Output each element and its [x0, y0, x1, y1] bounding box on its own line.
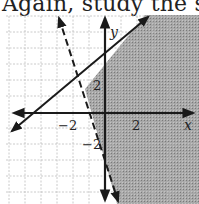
tick-label-x-2: 2	[132, 118, 140, 133]
tick-label-x-neg2: −2	[58, 118, 77, 133]
inequality-graph: y x −2 2 2 −2	[0, 0, 199, 204]
y-axis-label: y	[109, 24, 119, 40]
tick-label-y-neg2: −2	[82, 137, 101, 152]
tick-label-y-2: 2	[93, 78, 101, 93]
x-axis-label: x	[184, 117, 192, 133]
